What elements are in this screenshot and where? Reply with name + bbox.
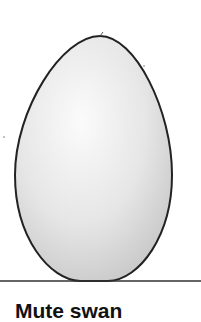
- egg-shape: [3, 32, 172, 281]
- species-caption: Mute swan: [15, 300, 122, 321]
